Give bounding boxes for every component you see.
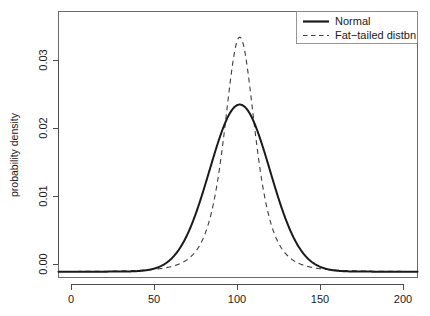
series-line-normal: [59, 105, 418, 272]
legend-label-fat-tailed: Fat−tailed distbn: [335, 29, 416, 41]
y-tick-label-3: 0.03: [37, 49, 49, 70]
y-axis: 0.00 0.01 0.02 0.03: [37, 49, 59, 274]
legend-entry-normal[interactable]: Normal: [303, 15, 370, 27]
legend-label-normal: Normal: [335, 15, 370, 27]
x-tick-label-1: 50: [148, 293, 160, 305]
plot-panel-border: [59, 12, 418, 278]
y-tick-label-0: 0.00: [37, 253, 49, 274]
y-tick-label-2: 0.02: [37, 117, 49, 138]
x-tick-label-0: 0: [68, 293, 74, 305]
y-axis-title: probability density: [8, 112, 20, 197]
plot-canvas: 0.00 0.01 0.02 0.03 probability density …: [0, 0, 430, 316]
density-plot-figure: 0.00 0.01 0.02 0.03 probability density …: [0, 0, 430, 316]
legend-entry-fat-tailed[interactable]: Fat−tailed distbn: [303, 29, 416, 41]
x-axis: 0 50 100 150 200: [68, 285, 412, 306]
y-tick-label-1: 0.01: [37, 185, 49, 206]
x-tick-label-3: 150: [311, 293, 329, 305]
series-line-fat-tailed: [59, 37, 418, 271]
legend: Normal Fat−tailed distbn: [297, 12, 418, 44]
x-tick-label-4: 200: [394, 293, 412, 305]
x-tick-label-2: 100: [228, 293, 246, 305]
